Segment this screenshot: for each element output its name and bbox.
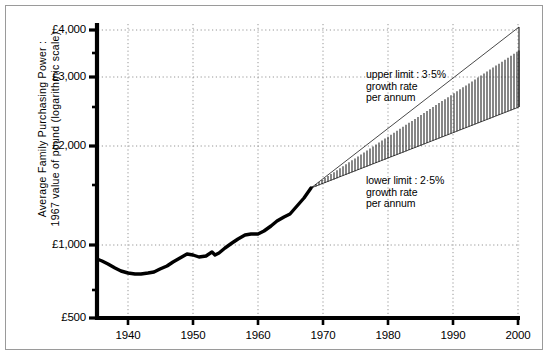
upper-limit-line	[311, 27, 519, 188]
x-tick-label-1960: 1960	[232, 329, 284, 341]
x-tick-label-1980: 1980	[362, 329, 414, 341]
x-tick-label-1950: 1950	[167, 329, 219, 341]
y-tick-label-500: £500	[12, 311, 86, 323]
annotation-upper-line-3: per annum	[366, 92, 446, 104]
chart-figure: £4,000 £3,000 £2,000 £1,000 £500 1940 19…	[0, 0, 550, 357]
x-tick-label-1940: 1940	[102, 329, 154, 341]
x-tick-label-1970: 1970	[297, 329, 349, 341]
annotation-upper-line-1: upper limit : 3·5%	[366, 69, 446, 81]
annotation-lower-line-3: per annum	[366, 198, 444, 210]
x-tick-label-1990: 1990	[427, 329, 479, 341]
purchasing-power-curve	[97, 188, 311, 274]
y-tick-label-4000: £4,000	[12, 23, 86, 35]
chart-plot-area	[0, 0, 550, 357]
annotation-upper-limit: upper limit : 3·5% growth rate per annum	[366, 69, 446, 104]
grid-horizontal	[98, 30, 520, 245]
x-tick-label-2000: 2000	[492, 329, 544, 341]
y-tick-label-1000: £1,000	[12, 238, 86, 250]
y-tick-label-2000: £2,000	[12, 139, 86, 151]
annotation-lower-line-1: lower limit : 2·5%	[366, 175, 444, 187]
grid-vertical	[128, 24, 518, 318]
y-tick-label-3000: £3,000	[12, 70, 86, 82]
annotation-lower-limit: lower limit : 2·5% growth rate per annum	[366, 175, 444, 210]
